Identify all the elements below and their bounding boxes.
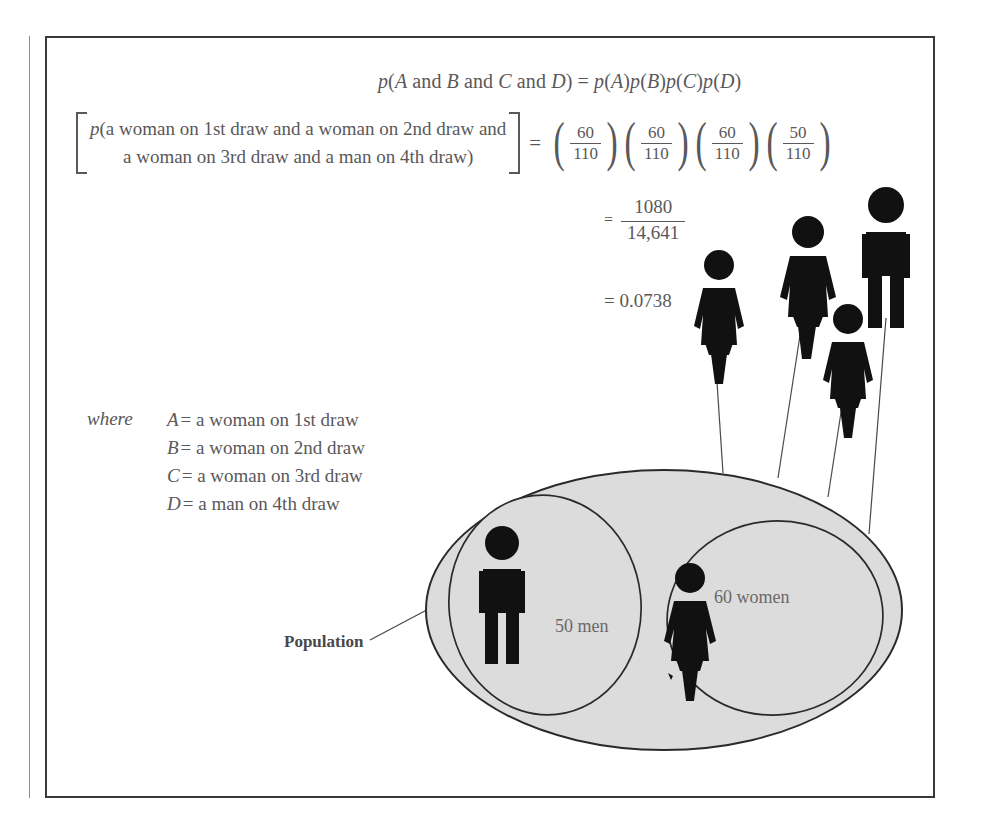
- draw-connector-4: [869, 318, 886, 534]
- figure-page: p(A and B and C and D) = p(A)p(B)p(C)p(D…: [0, 0, 981, 826]
- draw-connector-2: [778, 316, 803, 478]
- drawn-man-figure-4: [862, 187, 910, 328]
- draw-connector-3: [828, 406, 842, 497]
- drawn-woman-figure-2: [780, 216, 836, 359]
- drawn-woman-figure-3: [823, 304, 873, 438]
- population-diagram: [0, 0, 981, 826]
- men-count-label: 50 men: [555, 616, 609, 637]
- women-count-label: 60 women: [714, 587, 790, 608]
- population-label: Population: [284, 632, 363, 652]
- drawn-woman-figure-1: [694, 250, 744, 384]
